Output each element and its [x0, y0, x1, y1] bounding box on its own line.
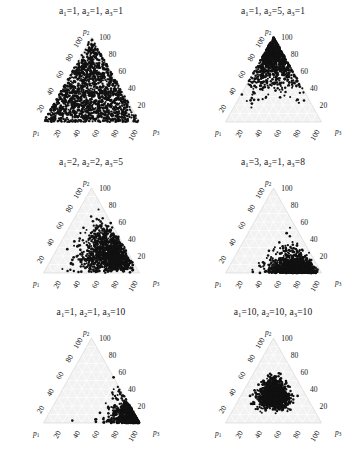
tick-left-20: 20 [35, 254, 47, 265]
tick-left-40: 40 [44, 387, 56, 398]
tick-left-40: 40 [44, 237, 56, 248]
ternary-panel-5: a1=1, a2=1, a3=1020406080100204060801002… [0, 301, 182, 455]
plot-area-5: 204060801002040608010020406080100p2p1p3 [0, 319, 182, 447]
tick-bottom-100: 100 [308, 429, 322, 444]
tick-right-20: 20 [320, 402, 328, 411]
tick-bottom-80: 80 [109, 429, 121, 440]
vertex-label-p1: p1 [32, 128, 40, 138]
tick-right-100: 100 [99, 334, 111, 343]
ternary-panel-6: a1=10, a2=10, a3=10204060801002040608010… [182, 301, 364, 455]
panel-title-4: a1=3, a2=1, a3=8 [182, 157, 364, 167]
plot-area-4: 204060801002040608010020406080100p2p1p3 [182, 169, 364, 297]
vertex-label-p1: p1 [32, 429, 40, 439]
vertex-label-p2: p2 [82, 328, 90, 338]
tick-left-80: 80 [64, 353, 76, 364]
tick-bottom-100: 100 [126, 279, 140, 294]
tick-right-100: 100 [281, 184, 293, 193]
tick-right-80: 80 [291, 201, 299, 210]
tick-right-20: 20 [138, 402, 146, 411]
tick-bottom-60: 60 [272, 429, 284, 440]
tick-right-60: 60 [300, 368, 308, 377]
tick-left-60: 60 [54, 220, 66, 231]
tick-left-60: 60 [54, 370, 66, 381]
tick-left-60: 60 [236, 370, 248, 381]
vertex-label-p1: p1 [214, 128, 222, 138]
panel-title-6: a1=10, a2=10, a3=10 [182, 307, 364, 317]
ternary-axes-4: 204060801002040608010020406080100p2p1p3 [182, 169, 364, 297]
tick-bottom-40: 40 [253, 279, 265, 290]
plot-area-1: 204060801002040608010020406080100p2p1p3 [0, 18, 182, 146]
vertex-label-p1: p1 [214, 429, 222, 439]
tick-right-20: 20 [138, 101, 146, 110]
vertex-label-p1: p1 [214, 279, 222, 289]
tick-bottom-40: 40 [71, 429, 83, 440]
vertex-label-p1: p1 [32, 279, 40, 289]
tick-bottom-40: 40 [253, 429, 265, 440]
tick-bottom-80: 80 [291, 279, 303, 290]
tick-left-60: 60 [236, 220, 248, 231]
tick-bottom-20: 20 [51, 429, 63, 440]
plot-area-2: 204060801002040608010020406080100p2p1p3 [182, 18, 364, 146]
tick-left-60: 60 [236, 69, 248, 80]
tick-bottom-60: 60 [272, 279, 284, 290]
tick-left-20: 20 [217, 254, 229, 265]
tick-bottom-80: 80 [291, 128, 303, 139]
tick-right-100: 100 [281, 33, 293, 42]
tick-right-20: 20 [320, 252, 328, 261]
ternary-panel-1: a1=1, a2=1, a3=1204060801002040608010020… [0, 0, 182, 151]
tick-left-20: 20 [35, 103, 47, 114]
tick-bottom-100: 100 [126, 429, 140, 444]
tick-left-40: 40 [44, 86, 56, 97]
panel-title-2: a1=1, a2=5, a3=1 [182, 6, 364, 16]
plot-area-6: 204060801002040608010020406080100p2p1p3 [182, 319, 364, 447]
vertex-label-p3: p3 [152, 278, 160, 288]
tick-right-80: 80 [109, 351, 117, 360]
tick-left-100: 100 [253, 186, 267, 201]
tick-right-80: 80 [291, 351, 299, 360]
tick-right-40: 40 [310, 235, 318, 244]
ternary-axes-2: 204060801002040608010020406080100p2p1p3 [182, 18, 364, 146]
plot-area-3: 204060801002040608010020406080100p2p1p3 [0, 169, 182, 297]
tick-right-40: 40 [128, 235, 136, 244]
panel-title-1: a1=1, a2=1, a3=1 [0, 6, 182, 16]
ternary-panel-2: a1=1, a2=5, a3=1204060801002040608010020… [182, 0, 364, 151]
tick-bottom-40: 40 [71, 279, 83, 290]
tick-left-60: 60 [54, 69, 66, 80]
tick-bottom-20: 20 [233, 429, 245, 440]
ternary-axes-6: 204060801002040608010020406080100p2p1p3 [182, 319, 364, 447]
tick-left-40: 40 [226, 387, 238, 398]
tick-bottom-80: 80 [109, 128, 121, 139]
tick-left-80: 80 [64, 52, 76, 63]
tick-left-100: 100 [71, 35, 85, 50]
tick-bottom-60: 60 [272, 128, 284, 139]
tick-right-80: 80 [109, 50, 117, 59]
ternary-axes-1: 204060801002040608010020406080100p2p1p3 [0, 18, 182, 146]
vertex-label-p2: p2 [264, 328, 272, 338]
tick-left-20: 20 [35, 404, 47, 415]
tick-right-60: 60 [118, 67, 126, 76]
tick-bottom-60: 60 [90, 429, 102, 440]
tick-bottom-100: 100 [308, 279, 322, 294]
vertex-label-p2: p2 [82, 27, 90, 37]
tick-right-60: 60 [300, 67, 308, 76]
tick-left-40: 40 [226, 237, 238, 248]
tick-left-80: 80 [246, 203, 258, 214]
tick-bottom-20: 20 [51, 128, 63, 139]
vertex-label-p3: p3 [334, 278, 342, 288]
tick-left-80: 80 [64, 203, 76, 214]
tick-right-60: 60 [300, 218, 308, 227]
tick-right-20: 20 [138, 252, 146, 261]
ternary-panel-4: a1=3, a2=1, a3=8204060801002040608010020… [182, 151, 364, 301]
vertex-label-p3: p3 [334, 428, 342, 438]
tick-left-100: 100 [71, 336, 85, 351]
tick-bottom-20: 20 [233, 279, 245, 290]
panel-grid: a1=1, a2=1, a3=1204060801002040608010020… [0, 0, 364, 455]
tick-right-60: 60 [118, 368, 126, 377]
tick-left-40: 40 [226, 86, 238, 97]
ternary-plot-figure: a1=1, a2=1, a3=1204060801002040608010020… [0, 0, 364, 455]
tick-bottom-100: 100 [126, 128, 140, 143]
tick-right-40: 40 [128, 84, 136, 93]
tick-right-20: 20 [320, 101, 328, 110]
tick-right-40: 40 [310, 84, 318, 93]
vertex-label-p2: p2 [264, 178, 272, 188]
